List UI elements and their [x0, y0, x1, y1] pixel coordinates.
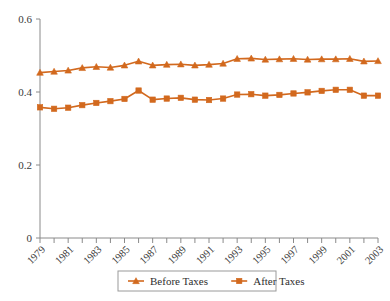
data-point-square	[319, 88, 324, 93]
data-point-square	[291, 91, 296, 96]
data-point-square	[150, 97, 155, 102]
y-tick-label: 0.2	[18, 159, 32, 171]
data-point-square	[220, 96, 225, 101]
data-point-square	[37, 105, 42, 110]
y-tick-label: 0.6	[18, 13, 32, 25]
data-point-square	[51, 106, 56, 111]
data-point-square	[122, 96, 127, 101]
chart-page: 00.20.40.6 19791981198319851987198919911…	[0, 0, 390, 301]
legend-label: After Taxes	[253, 275, 304, 287]
data-point-square	[80, 102, 85, 107]
data-point-square	[263, 93, 268, 98]
legend-label: Before Taxes	[150, 275, 208, 287]
data-point-square	[136, 88, 141, 93]
data-point-square	[375, 93, 380, 98]
y-tick-label: 0	[27, 232, 33, 244]
y-tick-label: 0.4	[18, 86, 32, 98]
data-point-square	[333, 87, 338, 92]
data-point-square	[361, 93, 366, 98]
data-point-square	[249, 91, 254, 96]
data-point-square	[164, 96, 169, 101]
legend-marker-square	[237, 278, 242, 283]
data-point-square	[94, 100, 99, 105]
data-point-square	[234, 92, 239, 97]
line-chart: 00.20.40.6 19791981198319851987198919911…	[0, 0, 390, 301]
data-point-square	[206, 97, 211, 102]
chart-legend[interactable]: Before TaxesAfter Taxes	[118, 271, 304, 291]
data-point-square	[192, 97, 197, 102]
data-point-square	[305, 90, 310, 95]
data-point-square	[65, 105, 70, 110]
data-point-square	[277, 92, 282, 97]
data-point-square	[347, 87, 352, 92]
data-point-square	[108, 98, 113, 103]
data-point-square	[178, 95, 183, 100]
